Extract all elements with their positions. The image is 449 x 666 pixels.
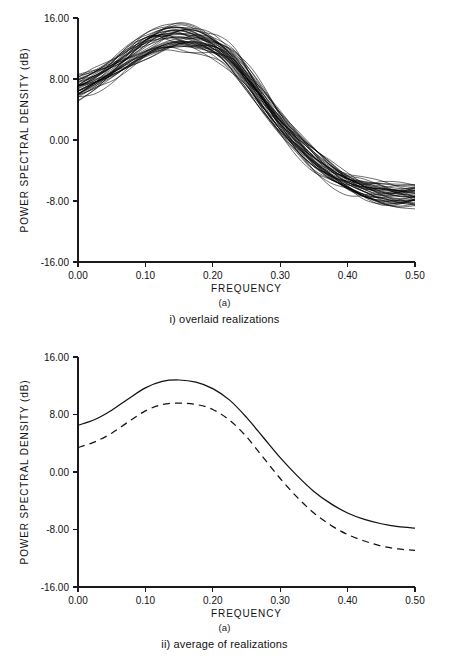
x-axis-title: FREQUENCY [211,608,282,619]
y-tick-label: -8.00 [46,524,69,535]
chart-panel-average-of-realizations: -16.00-8.000.008.0016.000.000.100.200.30… [0,340,449,666]
realization-curve [78,25,415,188]
x-axis-title: FREQUENCY [211,283,282,294]
realization-curve [78,27,415,191]
caption-label-top: (a) [0,297,449,308]
y-tick-label: -8.00 [46,196,69,207]
realization-curve [78,24,415,186]
y-tick-label: 0.00 [50,467,70,478]
x-tick-label: 0.50 [405,595,425,606]
x-tick-label: 0.50 [405,270,425,281]
realization-curve [78,31,415,193]
x-tick-label: 0.30 [270,595,290,606]
x-tick-label: 0.00 [68,595,88,606]
y-tick-label: -16.00 [41,582,70,593]
x-tick-label: 0.10 [136,270,156,281]
overlaid-realizations-plot: -16.00-8.000.008.0016.000.000.100.200.30… [0,0,449,340]
y-axis-title: POWER SPECTRAL DENSITY (dB) [19,380,30,565]
x-tick-label: 0.10 [136,595,156,606]
average-curve-dashed [78,403,415,550]
caption-text-bottom: ii) average of realizations [0,638,449,650]
realization-curve [79,30,415,193]
x-tick-label: 0.20 [203,595,223,606]
y-axis-title: POWER SPECTRAL DENSITY (dB) [19,48,30,233]
realization-curve [78,23,415,185]
chart-panel-overlaid-realizations: -16.00-8.000.008.0016.000.000.100.200.30… [0,0,449,340]
caption-label-bottom: (a) [0,622,449,633]
realization-curve [77,35,415,200]
realization-curve [77,27,415,191]
realization-curve [79,35,415,196]
caption-text-top: i) overlaid realizations [0,313,449,325]
y-tick-label: 16.00 [44,352,69,363]
x-tick-label: 0.30 [270,270,290,281]
overlaid-curves-group [77,23,415,209]
realization-curve [79,30,415,193]
x-tick-label: 0.40 [338,595,358,606]
x-tick-label: 0.20 [203,270,223,281]
realization-curve [77,36,415,197]
y-tick-label: 8.00 [50,74,70,85]
realization-curve [78,28,415,188]
y-tick-label: 16.00 [44,13,69,24]
x-tick-label: 0.40 [338,270,358,281]
figure-page: -16.00-8.000.008.0016.000.000.100.200.30… [0,0,449,666]
average-curves-group [78,380,415,550]
y-tick-label: 0.00 [50,135,70,146]
x-tick-label: 0.00 [68,270,88,281]
true-spectrum-curve-solid [78,380,415,528]
y-tick-label: -16.00 [41,257,70,268]
average-of-realizations-plot: -16.00-8.000.008.0016.000.000.100.200.30… [0,340,449,666]
y-tick-label: 8.00 [50,409,70,420]
